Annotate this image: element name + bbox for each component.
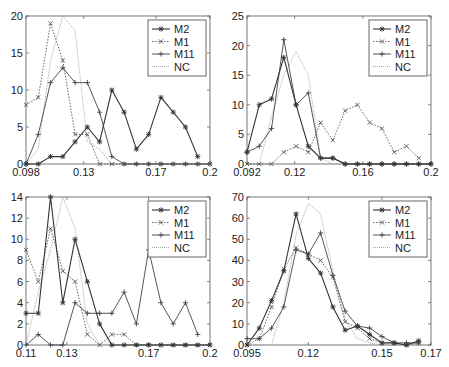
chart-panel-top-left: 051015200.0980.130.170.2M2M1M11NC <box>11 10 218 178</box>
legend: M2M1M11NC <box>369 20 427 76</box>
y-tick-label: 10 <box>11 84 23 96</box>
x-tick-label: 0.095 <box>233 347 261 359</box>
y-tick-label: 4 <box>17 297 23 309</box>
y-tick-label: 20 <box>232 297 244 309</box>
x-tick-label: 0.17 <box>138 347 159 359</box>
svg-text:NC: NC <box>174 242 190 254</box>
y-tick-label: 2 <box>17 318 23 330</box>
x-tick-label: 0.2 <box>202 347 217 359</box>
x-tick-label: 0.2 <box>202 166 217 178</box>
svg-text:M1: M1 <box>174 217 189 229</box>
y-tick-label: 25 <box>232 10 244 22</box>
y-tick-label: 8 <box>17 254 23 266</box>
y-tick-label: 6 <box>17 276 23 288</box>
svg-text:M2: M2 <box>395 23 410 35</box>
chart-panel-top-right: 05101520250.0920.120.160.2M2M1M11NC <box>232 10 439 178</box>
x-tick-label: 0.17 <box>145 166 166 178</box>
legend: M2M1M11NC <box>369 201 427 257</box>
svg-text:M1: M1 <box>174 36 189 48</box>
figure-2x2-line-charts: 051015200.0980.130.170.2M2M1M11NC0510152… <box>0 0 449 367</box>
svg-text:M1: M1 <box>395 36 410 48</box>
y-tick-label: 50 <box>232 233 244 245</box>
y-tick-label: 20 <box>232 40 244 52</box>
series-m11 <box>23 65 212 166</box>
x-tick-label: 0.16 <box>352 166 373 178</box>
y-tick-label: 70 <box>232 191 244 203</box>
chart-canvas: 051015200.0980.130.170.2M2M1M11NC0510152… <box>0 0 449 367</box>
series-m1 <box>245 246 421 347</box>
svg-text:M11: M11 <box>395 229 416 241</box>
x-tick-label: 0.15 <box>371 347 392 359</box>
svg-text:M11: M11 <box>174 48 195 60</box>
chart-panel-bottom-right: 0102030405060700.0950.120.150.17M2M1M11N… <box>232 191 442 359</box>
x-tick-label: 0.092 <box>233 166 261 178</box>
y-tick-label: 14 <box>11 191 23 203</box>
svg-text:M1: M1 <box>395 217 410 229</box>
legend: M2M1M11NC <box>148 20 206 76</box>
x-tick-label: 0.12 <box>284 166 305 178</box>
y-tick-label: 15 <box>232 69 244 81</box>
svg-text:M2: M2 <box>174 204 189 216</box>
svg-text:NC: NC <box>395 61 411 73</box>
svg-text:NC: NC <box>395 242 411 254</box>
chart-panel-bottom-left: 024681012140.110.130.170.2M2M1M11NC <box>11 191 218 359</box>
y-tick-label: 12 <box>11 212 23 224</box>
x-tick-label: 0.12 <box>298 347 319 359</box>
svg-text:NC: NC <box>174 61 190 73</box>
y-tick-label: 10 <box>11 233 23 245</box>
x-tick-label: 0.098 <box>12 166 40 178</box>
svg-text:M2: M2 <box>395 204 410 216</box>
y-tick-label: 20 <box>11 10 23 22</box>
y-tick-label: 5 <box>238 128 244 140</box>
x-tick-label: 0.11 <box>16 347 37 359</box>
y-tick-label: 10 <box>232 318 244 330</box>
y-tick-label: 10 <box>232 99 244 111</box>
x-tick-label: 0.2 <box>423 166 438 178</box>
y-tick-label: 30 <box>232 276 244 288</box>
x-tick-label: 0.13 <box>73 166 94 178</box>
svg-text:M2: M2 <box>174 23 189 35</box>
y-tick-label: 15 <box>11 47 23 59</box>
svg-text:M11: M11 <box>174 229 195 241</box>
x-tick-label: 0.13 <box>56 347 77 359</box>
series-m11 <box>23 247 200 347</box>
y-tick-label: 60 <box>232 212 244 224</box>
svg-text:M11: M11 <box>395 48 416 60</box>
y-tick-label: 5 <box>17 121 23 133</box>
y-tick-label: 40 <box>232 254 244 266</box>
legend: M2M1M11NC <box>148 201 206 257</box>
x-tick-label: 0.17 <box>420 347 441 359</box>
